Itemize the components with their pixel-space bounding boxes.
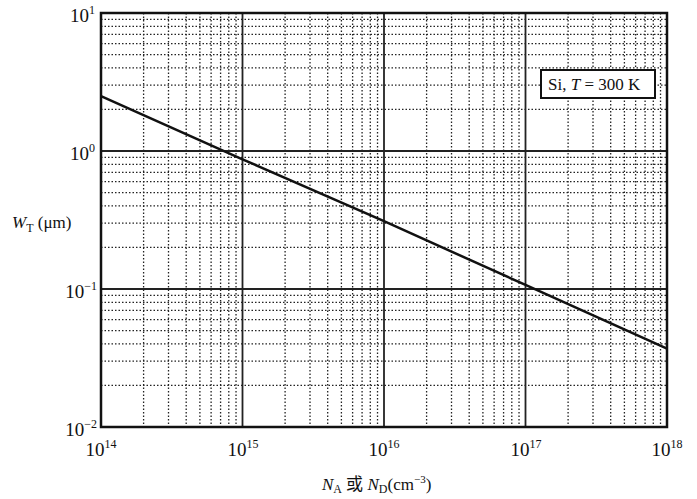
- y-tick-label: 10−2: [65, 417, 97, 440]
- x-tick-label: 1014: [86, 437, 117, 460]
- x-tick-labels: 1014 1015 1016 1017 1018: [86, 437, 683, 460]
- y-tick-label: 101: [70, 3, 95, 26]
- x-axis-label: NA 或 ND(cm−3): [321, 473, 431, 496]
- legend-text: Si, T = 300 K: [548, 75, 641, 94]
- x-tick-label: 1018: [652, 437, 683, 460]
- x-tick-label: 1016: [369, 437, 400, 460]
- y-tick-label: 100: [70, 141, 95, 164]
- x-tick-label: 1015: [228, 437, 259, 460]
- chart: Si, T = 300 K 101 100 10−1 10−2 1014 101…: [0, 0, 697, 499]
- y-tick-label: 10−1: [65, 279, 97, 302]
- x-tick-label: 1017: [511, 437, 542, 460]
- y-axis-label: WT (μm): [12, 213, 71, 235]
- legend: Si, T = 300 K: [541, 70, 655, 98]
